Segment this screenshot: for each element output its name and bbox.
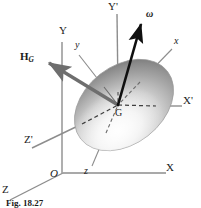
mass-center-label: G — [115, 108, 122, 118]
angular-momentum-subscript: G — [29, 55, 34, 64]
axis-label-x-prime: X' — [183, 95, 193, 106]
angular-velocity-label: ω — [146, 9, 153, 19]
body-axis-label-y: y — [75, 40, 79, 50]
axis-label-y: Y — [59, 25, 67, 36]
figure-caption: Fig. 18.27 — [6, 198, 43, 208]
axis-label-z: Z — [2, 184, 9, 195]
mechanics-figure: Y' X' Z' Y X Z x y z O G ω HG Fig. 18.27 — [0, 0, 201, 208]
body-axis-label-x: x — [174, 36, 178, 46]
axis-label-x: X — [166, 162, 174, 173]
axis-label-z-prime: Z' — [24, 134, 33, 145]
mass-center-point — [117, 104, 120, 107]
ellipsoid-body — [57, 40, 192, 169]
origin-label: O — [50, 168, 58, 179]
axis-z-prime-line — [32, 124, 82, 148]
figure-canvas — [0, 0, 201, 208]
angular-momentum-label: HG — [20, 51, 34, 64]
axis-label-y-prime: Y' — [108, 1, 118, 12]
body-axis-label-z: z — [84, 166, 88, 176]
